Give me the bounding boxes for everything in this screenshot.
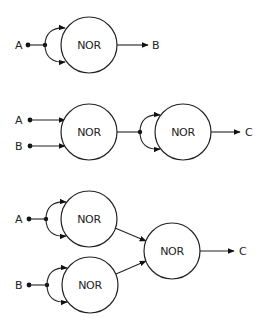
- gate-label-a: NOR: [77, 213, 101, 226]
- diagram-or-gate: A B NOR NOR C: [15, 104, 253, 160]
- input-label-b: B: [15, 279, 23, 292]
- nor-gate-diagrams: A NOR B A B NOR NOR C A: [0, 0, 269, 335]
- input-label-a: A: [15, 39, 23, 52]
- output-label-c: C: [239, 245, 247, 258]
- intermediate-wire-a: [115, 228, 146, 241]
- diagram-not-gate: A NOR B: [15, 17, 160, 73]
- gate-label-b: NOR: [78, 279, 102, 292]
- gate-label-1: NOR: [77, 126, 101, 139]
- gate-label-final: NOR: [160, 245, 184, 258]
- intermediate-wire-b: [116, 261, 146, 274]
- input-label-a: A: [15, 213, 23, 226]
- input-label-b: B: [15, 140, 23, 153]
- input-label-a: A: [15, 114, 23, 127]
- output-label-b: B: [152, 39, 160, 52]
- output-label-c: C: [245, 126, 253, 139]
- gate-label-2: NOR: [171, 126, 195, 139]
- diagram-and-gate: A NOR B NOR NOR C: [15, 191, 247, 313]
- gate-label: NOR: [77, 39, 101, 52]
